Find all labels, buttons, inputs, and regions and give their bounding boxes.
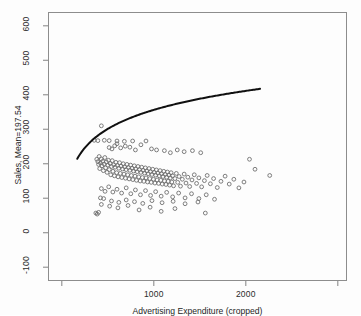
y-axis-tick-label: 300 xyxy=(14,122,38,132)
y-axis-tick-label: 600 xyxy=(14,19,38,29)
y-axis-title: Sales, Mean=197.54 xyxy=(0,140,78,150)
x-axis-title-text: Advertising Expenditure (cropped) xyxy=(133,306,263,316)
y-axis-tick-label: 200 xyxy=(14,157,38,167)
x-axis-title: Advertising Expenditure (cropped) xyxy=(48,306,347,316)
y-axis-tick-label: 400 xyxy=(14,88,38,98)
y-axis-tick-label: 0 xyxy=(14,226,38,236)
x-axis-tick-label: 1000 xyxy=(134,289,174,299)
y-axis-tick-label: 100 xyxy=(14,191,38,201)
y-axis-tick-label: -100 xyxy=(14,260,38,270)
y-axis-tick-label: 500 xyxy=(14,53,38,63)
x-axis-tick-label: 2000 xyxy=(226,289,266,299)
